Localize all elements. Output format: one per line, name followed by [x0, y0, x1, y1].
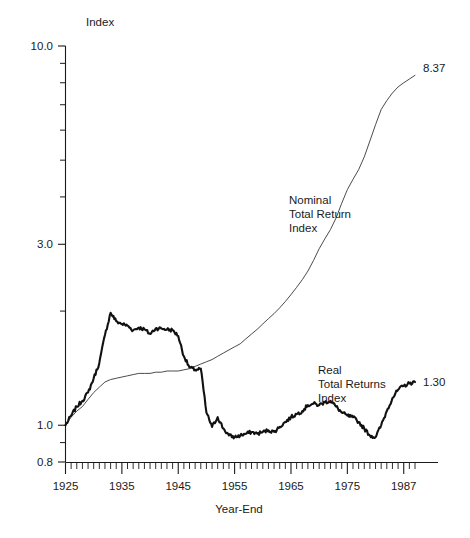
real-annot-line-2: Total Returns	[318, 378, 386, 390]
x-tick-label: 1965	[278, 480, 304, 492]
nominal-series-annotation: Nominal Total Return Index	[289, 194, 351, 234]
nominal-annot-line-2: Total Return	[289, 208, 351, 220]
x-tick-label: 1925	[53, 480, 79, 492]
y-axis-title: Index	[86, 16, 114, 28]
y-tick-label: 1.0	[37, 419, 53, 431]
real-series-annotation: Real Total Returns Index	[318, 364, 386, 404]
real-annot-line-1: Real	[318, 364, 342, 376]
y-tick-label: 0.8	[37, 456, 53, 468]
y-axis-tick-labels: 10.03.01.00.8	[31, 40, 53, 468]
x-tick-label: 1945	[165, 480, 191, 492]
x-axis-title: Year-End	[215, 503, 263, 515]
nominal-annot-line-3: Index	[289, 222, 317, 234]
y-tick-label: 10.0	[31, 40, 53, 52]
x-axis-tick-labels: 1925193519451955196519751987	[53, 480, 417, 492]
real-total-returns-line	[66, 313, 416, 439]
nominal-end-value-label: 8.37	[423, 62, 445, 74]
x-tick-label: 1987	[391, 480, 417, 492]
real-annot-line-3: Index	[318, 392, 346, 404]
y-tick-label: 3.0	[37, 238, 53, 250]
x-tick-label: 1955	[222, 480, 248, 492]
nominal-total-return-line	[66, 75, 416, 425]
y-axis-ticks	[58, 46, 66, 462]
nominal-annot-line-1: Nominal	[289, 194, 331, 206]
real-end-value-label: 1.30	[423, 376, 445, 388]
x-axis-ticks	[66, 463, 416, 475]
stock-index-chart: Index 10.03.01.00.8 19251935194519551965…	[0, 0, 470, 538]
x-tick-label: 1975	[335, 480, 361, 492]
x-tick-label: 1935	[109, 480, 135, 492]
